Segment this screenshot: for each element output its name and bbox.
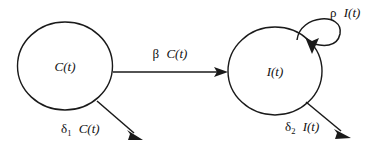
diagram-svg: C(t) I(t) β C(t) δ1 C(t) ρ I(t): [0, 0, 383, 145]
edge-i-out-rate-variable: I(t): [302, 119, 320, 134]
edge-c-to-i-rate-symbol: β: [153, 46, 160, 61]
edge-c-to-i[interactable]: [113, 67, 228, 77]
edge-c-out-rate-subscript: 1: [67, 128, 71, 138]
node-c-label: C(t): [55, 59, 76, 74]
edge-c-out-label: δ1 C(t): [61, 121, 100, 139]
edge-i-out-label: δ2 I(t): [285, 119, 319, 137]
diagram-canvas: C(t) I(t) β C(t) δ1 C(t) ρ I(t): [0, 0, 383, 145]
edge-c-to-i-rate-variable: C(t): [166, 46, 187, 61]
edge-c-out-arrowhead: [127, 130, 143, 140]
edge-i-out-arrowhead: [334, 129, 351, 139]
edge-i-self-loop-rate-variable: I(t): [343, 5, 361, 20]
edge-c-out-rate-variable: C(t): [79, 121, 100, 136]
edge-i-self-loop-label: ρ I(t): [330, 5, 360, 20]
edge-i-self-loop-rate-symbol: ρ: [330, 5, 337, 20]
edge-c-out-line: [97, 101, 134, 133]
edge-i-out-rate-subscript: 2: [291, 126, 295, 136]
node-i-label: I(t): [266, 64, 284, 79]
edge-c-to-i-label: β C(t): [153, 46, 188, 61]
edge-c-out[interactable]: [97, 101, 143, 140]
